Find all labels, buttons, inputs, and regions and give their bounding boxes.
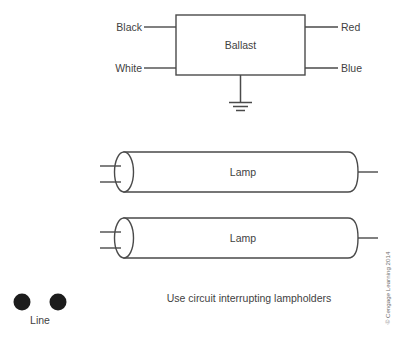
diagram-svg: Black White Red Blue Ballast Lamp Lamp L…: [0, 0, 401, 345]
label-red: Red: [341, 21, 360, 33]
diagram-caption: Use circuit interrupting lampholders: [167, 292, 332, 304]
label-black: Black: [116, 21, 142, 33]
line-terminal-dot-1: [14, 294, 31, 311]
line-terminal-dot-2: [50, 294, 67, 311]
label-blue: Blue: [341, 62, 362, 74]
line-terminals-group: [14, 294, 67, 311]
lamp-1-end-cap: [115, 152, 134, 192]
label-line: Line: [30, 314, 50, 326]
copyright-credit: © Cengage Learning 2014: [384, 251, 391, 324]
label-white: White: [115, 62, 142, 74]
lamp-2-end-cap: [115, 218, 134, 258]
label-ballast: Ballast: [225, 39, 257, 51]
wiring-diagram-canvas: Black White Red Blue Ballast Lamp Lamp L…: [0, 0, 401, 345]
label-lamp-1: Lamp: [230, 166, 256, 178]
ballast-group: [144, 15, 338, 111]
label-lamp-2: Lamp: [230, 232, 256, 244]
